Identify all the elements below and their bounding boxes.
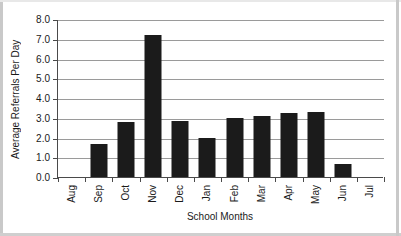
x-axis-tick	[85, 177, 86, 182]
x-axis-tick	[221, 177, 222, 182]
y-axis-tick-label: 8.0	[36, 15, 50, 25]
x-axis-tick	[275, 177, 276, 182]
bar-slot: Mar	[248, 19, 275, 177]
bar-slot: Apr	[275, 19, 302, 177]
y-axis-tick-label: 7.0	[36, 35, 50, 45]
bar	[90, 144, 107, 177]
y-axis-tick-label: 0.0	[36, 173, 50, 183]
x-axis-tick	[303, 177, 304, 182]
bar	[145, 35, 162, 177]
bar	[199, 138, 216, 178]
x-axis-tick	[357, 177, 358, 182]
bar	[253, 116, 270, 177]
x-axis-tick-label: Jun	[338, 185, 348, 201]
bar-slot: Jul	[357, 19, 384, 177]
x-axis-tick-label: Dec	[175, 185, 185, 203]
x-axis-tick	[140, 177, 141, 182]
plot-area: 8.07.06.05.04.03.02.01.00.0 AugSepOctNov…	[57, 20, 383, 178]
y-axis-tick-label: 4.0	[36, 94, 50, 104]
bar-series: AugSepOctNovDecJanFebMarAprMayJunJul	[58, 19, 384, 177]
y-axis-tick-label: 1.0	[36, 153, 50, 163]
x-axis-tick	[167, 177, 168, 182]
x-axis-tick-label: Mar	[257, 185, 267, 202]
bar	[117, 122, 134, 177]
y-axis-title: Average Referrals Per Day	[8, 20, 22, 178]
bar	[226, 118, 243, 177]
bar-slot: Nov	[140, 19, 167, 177]
y-axis-tick-label: 6.0	[36, 55, 50, 65]
x-axis-tick	[248, 177, 249, 182]
x-axis-tick-label: Nov	[148, 185, 158, 203]
bar	[280, 113, 297, 177]
x-axis-tick	[58, 177, 59, 182]
x-axis-tick	[112, 177, 113, 182]
y-axis-tick-label: 3.0	[36, 114, 50, 124]
x-axis-tick	[330, 177, 331, 182]
bar	[172, 121, 189, 177]
x-axis-tick-label: Aug	[67, 185, 77, 203]
frame-bottom-edge	[0, 233, 401, 236]
y-axis-tick-label: 5.0	[36, 74, 50, 84]
bar-slot: Dec	[167, 19, 194, 177]
bar	[308, 112, 325, 177]
bar-slot: Jan	[194, 19, 221, 177]
bar-slot: Oct	[112, 19, 139, 177]
bar-slot: May	[303, 19, 330, 177]
bar-slot: Aug	[58, 19, 85, 177]
x-axis-tick	[194, 177, 195, 182]
bar-slot: Feb	[221, 19, 248, 177]
frame-top-edge	[0, 0, 401, 2]
bar-slot: Jun	[330, 19, 357, 177]
x-axis-tick-label: Sep	[94, 185, 104, 203]
bar	[335, 164, 352, 177]
x-axis-tick-label: Jan	[202, 185, 212, 201]
x-axis-tick-label: May	[311, 185, 321, 204]
chart-frame: Average Referrals Per Day 8.07.06.05.04.…	[0, 0, 401, 236]
x-axis-tick-label: Oct	[121, 185, 131, 201]
x-axis-tick-label: Jul	[365, 185, 375, 198]
x-axis-tick-label: Feb	[230, 185, 240, 202]
x-axis-end-tick	[384, 177, 385, 182]
y-axis-tick-label: 2.0	[36, 134, 50, 144]
x-axis-title: School Months	[57, 211, 383, 222]
x-axis-tick-label: Apr	[284, 185, 294, 201]
bar-slot: Sep	[85, 19, 112, 177]
